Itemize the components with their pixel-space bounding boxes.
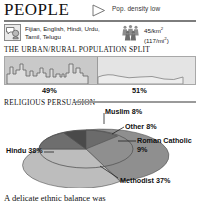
- page-title: PEOPLE: [4, 0, 69, 20]
- density-imperial-close: ): [167, 37, 169, 44]
- pie-label-other: Other 8%: [125, 123, 157, 132]
- rural-percent: 51%: [132, 86, 147, 95]
- urban-rural-percents: 49% 51%: [4, 86, 196, 96]
- religion-heading-rule: [76, 101, 196, 103]
- urban-rural-heading: THE URBAN/RURAL POPULATION SPLIT: [4, 45, 150, 54]
- pop-density-value: 45/km2 (117/mi2): [144, 25, 200, 45]
- page-header: PEOPLE Pop. density low: [4, 1, 196, 21]
- urban-percent: 49%: [42, 86, 57, 95]
- skyline-and-hills-graphic: [5, 57, 195, 84]
- fiji-flag-icon: [92, 4, 106, 17]
- density-metric-exponent: 2: [161, 26, 163, 31]
- header-rule: [4, 20, 196, 22]
- facts-row: Fijian, English, Hindi, Urdu, Tamil, Tel…: [4, 24, 196, 43]
- pop-density-note: Pop. density low: [112, 5, 160, 12]
- rolling-hills-icon: [98, 75, 183, 84]
- density-metric: 45/km: [144, 27, 161, 34]
- religion-pie-chart: Muslim 8% Other 8% Roman Catholic 9% Hin…: [0, 104, 200, 188]
- pie-label-hindu: Hindu 38%: [6, 147, 43, 156]
- urban-rural-band: [4, 56, 196, 85]
- pie-label-muslim: Muslim 8%: [105, 108, 142, 117]
- speech-languages-icon: [4, 24, 21, 41]
- pie-label-methodist: Methodist 37%: [120, 177, 170, 186]
- pie-label-roman-catholic: Roman Catholic 9%: [137, 137, 195, 154]
- people-page: PEOPLE Pop. density low Fijian, English,…: [0, 0, 200, 206]
- languages-value: Fijian, English, Hindi, Urdu, Tamil, Tel…: [25, 25, 117, 41]
- city-skyline-icon: [7, 64, 88, 84]
- crowd-people-icon: [122, 24, 139, 41]
- body-paragraph: A delicate ethnic balance was: [4, 193, 196, 204]
- density-imperial: (117/mi: [144, 37, 164, 44]
